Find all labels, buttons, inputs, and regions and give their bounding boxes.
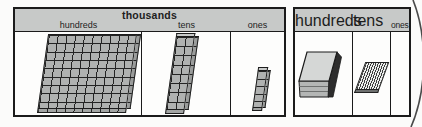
cube-stack-bottom-face [252,108,262,111]
hundreds-cell [295,32,353,115]
ones-period-table: hundreds tens ones [293,7,411,117]
place-value-chart: thousands hundreds tens ones [0,0,422,127]
rod-10-block-icon [165,33,199,114]
column-label-hundreds: hundreds [295,12,353,31]
thousands-group-label: thousands [15,9,284,20]
ones-table-header: hundreds tens ones [295,9,409,32]
ones-cell [391,32,409,115]
striped-rod-edge-face [354,90,379,93]
hundred-thousands-cell [15,32,142,115]
cube-stack-block-icon [252,67,271,111]
column-label-tens: tens [353,12,391,31]
one-thousands-cell [231,32,284,115]
thousands-period-table: thousands hundreds tens ones [13,7,286,117]
column-label-ten-thousands: tens [142,20,231,31]
flat-top-face [38,34,138,109]
striped-rod-block-icon [354,62,389,93]
column-label-ones: ones [391,20,409,31]
column-label-hundred-thousands: hundreds [15,20,142,31]
column-label-one-thousands: ones [231,20,284,31]
striped-rod-top-face [355,62,389,90]
rod-bottom-face [165,110,185,114]
slab-flat-block-icon [297,51,345,99]
thousands-table-header: thousands hundreds tens ones [15,9,284,32]
ten-thousands-cell [142,32,231,115]
flat-bottom-face [37,109,127,113]
tens-cell [353,32,391,115]
flat-100-block-icon [37,34,141,113]
